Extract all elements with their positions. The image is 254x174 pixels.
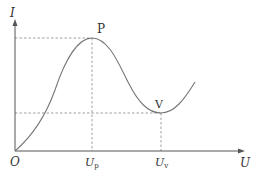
peak-voltage-tick-label: Up — [85, 156, 99, 170]
peak-point-label: P — [97, 22, 105, 36]
guide-lines — [15, 38, 161, 151]
y-axis-label: I — [9, 6, 15, 20]
x-axis-label: U — [240, 156, 251, 170]
y-axis-arrow-icon — [13, 19, 18, 26]
axes — [15, 24, 240, 151]
iv-curve-diagram: I U O P V Up Uv — [0, 0, 254, 174]
x-axis-arrow-icon — [238, 149, 245, 154]
valley-voltage-tick-label: Uv — [155, 156, 168, 170]
valley-point-label: V — [154, 98, 164, 111]
origin-label: O — [10, 155, 20, 169]
iv-curve — [15, 38, 195, 151]
